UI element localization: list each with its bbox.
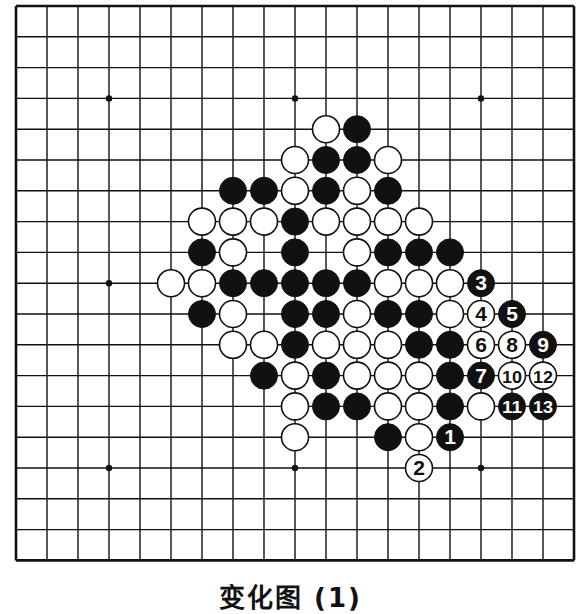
white-stone xyxy=(220,331,247,358)
white-stone xyxy=(282,177,309,204)
white-stone xyxy=(344,362,371,389)
white-stone xyxy=(189,208,216,235)
black-stone xyxy=(344,147,371,174)
star-point-icon xyxy=(106,280,112,286)
numbered-stone: 12 xyxy=(530,362,557,389)
black-stone xyxy=(406,239,433,266)
numbered-stone: 11 xyxy=(499,393,526,420)
black-stone xyxy=(437,393,464,420)
numbered-stone: 4 xyxy=(468,301,495,328)
move-number: 2 xyxy=(413,456,425,479)
black-stone xyxy=(313,270,340,297)
white-stone xyxy=(375,393,402,420)
white-stone xyxy=(406,424,433,451)
star-point-icon xyxy=(292,465,298,471)
numbered-stone: 13 xyxy=(530,393,557,420)
black-stone xyxy=(220,177,247,204)
star-point-icon xyxy=(478,95,484,101)
move-number: 10 xyxy=(502,368,522,387)
white-stone xyxy=(220,208,247,235)
move-number: 6 xyxy=(475,333,487,356)
white-stone xyxy=(158,270,185,297)
numbered-stone: 9 xyxy=(530,331,557,358)
black-stone xyxy=(344,270,371,297)
black-stone xyxy=(406,331,433,358)
diagram-caption: 变化图 (1) xyxy=(0,577,581,614)
numbered-stone: 3 xyxy=(468,270,495,297)
white-stone xyxy=(375,362,402,389)
black-stone xyxy=(344,116,371,143)
white-stone xyxy=(344,239,371,266)
white-stone xyxy=(375,147,402,174)
black-stone xyxy=(437,239,464,266)
white-stone xyxy=(282,362,309,389)
white-stone xyxy=(344,177,371,204)
move-number: 1 xyxy=(444,425,456,448)
black-stone xyxy=(251,362,278,389)
black-stone xyxy=(282,301,309,328)
black-stone xyxy=(313,362,340,389)
move-number: 11 xyxy=(502,398,522,417)
star-point-icon xyxy=(106,95,112,101)
black-stone xyxy=(220,270,247,297)
move-number: 12 xyxy=(533,368,553,387)
white-stone xyxy=(406,393,433,420)
move-number: 8 xyxy=(506,333,518,356)
numbered-stone: 6 xyxy=(468,331,495,358)
white-stone xyxy=(468,393,495,420)
numbered-stone: 1 xyxy=(437,424,464,451)
black-stone xyxy=(437,331,464,358)
black-stone xyxy=(282,239,309,266)
white-stone xyxy=(220,239,247,266)
numbered-stone: 7 xyxy=(468,362,495,389)
star-point-icon xyxy=(106,465,112,471)
white-stone xyxy=(375,208,402,235)
white-stone xyxy=(189,270,216,297)
move-number: 5 xyxy=(506,302,518,325)
black-stone xyxy=(406,301,433,328)
white-stone xyxy=(282,393,309,420)
white-stone xyxy=(282,147,309,174)
white-stone xyxy=(282,424,309,451)
numbered-stone: 8 xyxy=(499,331,526,358)
white-stone xyxy=(406,208,433,235)
black-stone xyxy=(313,393,340,420)
black-stone xyxy=(189,239,216,266)
move-number: 7 xyxy=(475,364,487,387)
white-stone xyxy=(437,270,464,297)
white-stone xyxy=(313,331,340,358)
black-stone xyxy=(375,177,402,204)
white-stone xyxy=(375,331,402,358)
white-stone xyxy=(251,208,278,235)
white-stone xyxy=(406,362,433,389)
white-stone xyxy=(437,301,464,328)
black-stone xyxy=(375,424,402,451)
move-number: 3 xyxy=(475,271,487,294)
white-stone xyxy=(220,301,247,328)
numbered-stone: 10 xyxy=(499,362,526,389)
stones-layer xyxy=(158,116,495,451)
black-stone xyxy=(313,177,340,204)
white-stone xyxy=(406,270,433,297)
black-stone xyxy=(313,301,340,328)
black-stone xyxy=(251,270,278,297)
white-stone xyxy=(344,301,371,328)
black-stone xyxy=(282,208,309,235)
white-stone xyxy=(251,331,278,358)
black-stone xyxy=(437,362,464,389)
black-stone xyxy=(282,331,309,358)
white-stone xyxy=(375,270,402,297)
white-stone xyxy=(313,116,340,143)
black-stone xyxy=(313,147,340,174)
black-stone xyxy=(251,177,278,204)
white-stone xyxy=(344,208,371,235)
white-stone xyxy=(344,331,371,358)
black-stone xyxy=(282,270,309,297)
black-stone xyxy=(375,301,402,328)
numbered-stone: 2 xyxy=(406,455,433,482)
numbered-stone: 5 xyxy=(499,301,526,328)
move-number: 4 xyxy=(475,302,487,325)
black-stone xyxy=(344,393,371,420)
black-stone xyxy=(375,239,402,266)
